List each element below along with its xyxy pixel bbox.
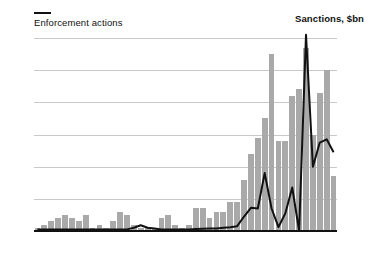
x-axis-baseline	[34, 230, 337, 232]
sanctions-line-path	[37, 35, 333, 231]
line-series-legend-swatch	[34, 12, 51, 14]
dual-axis-chart: Enforcement actions Sanctions, $bn 01020…	[0, 0, 372, 267]
line-series-sanctions	[34, 38, 337, 231]
left-axis-title: Enforcement actions	[34, 17, 123, 28]
right-axis-title: Sanctions, $bn	[295, 13, 364, 24]
plot-area: 0102030405060 0123456 197719851990199520…	[34, 38, 337, 231]
sanctions-line-path-svg	[34, 38, 337, 231]
